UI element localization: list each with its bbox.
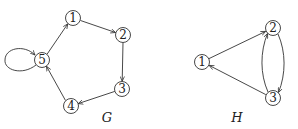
node-h-2-label: 2 [269, 21, 277, 35]
node-h-3: 3 [266, 91, 281, 106]
node-g-1-label: 1 [69, 11, 77, 25]
edge-g-5-1 [47, 24, 68, 55]
node-g-1: 1 [66, 11, 81, 26]
edge-h-1-2 [209, 31, 266, 58]
graph-g-label: G [102, 110, 112, 125]
edge-h-3-1 [209, 65, 266, 94]
node-g-3: 3 [115, 82, 130, 97]
edge-h-3-2 [262, 34, 268, 93]
node-g-2-label: 2 [119, 28, 127, 42]
graph-h-label: H [230, 110, 243, 125]
graph-h: 1 2 3 H [195, 21, 285, 126]
diagram-canvas: 1 2 3 4 5 G [0, 0, 298, 129]
node-h-1: 1 [195, 55, 210, 70]
edge-g-3-4 [78, 91, 115, 103]
node-g-4-label: 4 [67, 99, 75, 113]
edge-g-5-5-self-loop [5, 49, 36, 71]
node-g-5: 5 [35, 53, 50, 68]
node-g-2: 2 [116, 28, 131, 43]
edge-g-4-5 [47, 66, 66, 100]
graph-h-nodes: 1 2 3 [195, 21, 281, 106]
graph-g-nodes: 1 2 3 4 5 [35, 11, 131, 114]
graph-h-edges [209, 31, 284, 94]
node-h-2: 2 [266, 21, 281, 36]
node-h-1-label: 1 [198, 55, 206, 69]
node-g-4: 4 [64, 99, 79, 114]
edge-g-1-2 [81, 21, 116, 33]
node-g-3-label: 3 [118, 82, 126, 96]
node-g-5-label: 5 [38, 53, 46, 67]
edge-g-2-3 [122, 43, 123, 82]
graph-g: 1 2 3 4 5 G [5, 11, 131, 126]
edge-h-2-3 [278, 34, 284, 93]
graph-g-edges [5, 21, 123, 104]
node-h-3-label: 3 [269, 91, 277, 105]
